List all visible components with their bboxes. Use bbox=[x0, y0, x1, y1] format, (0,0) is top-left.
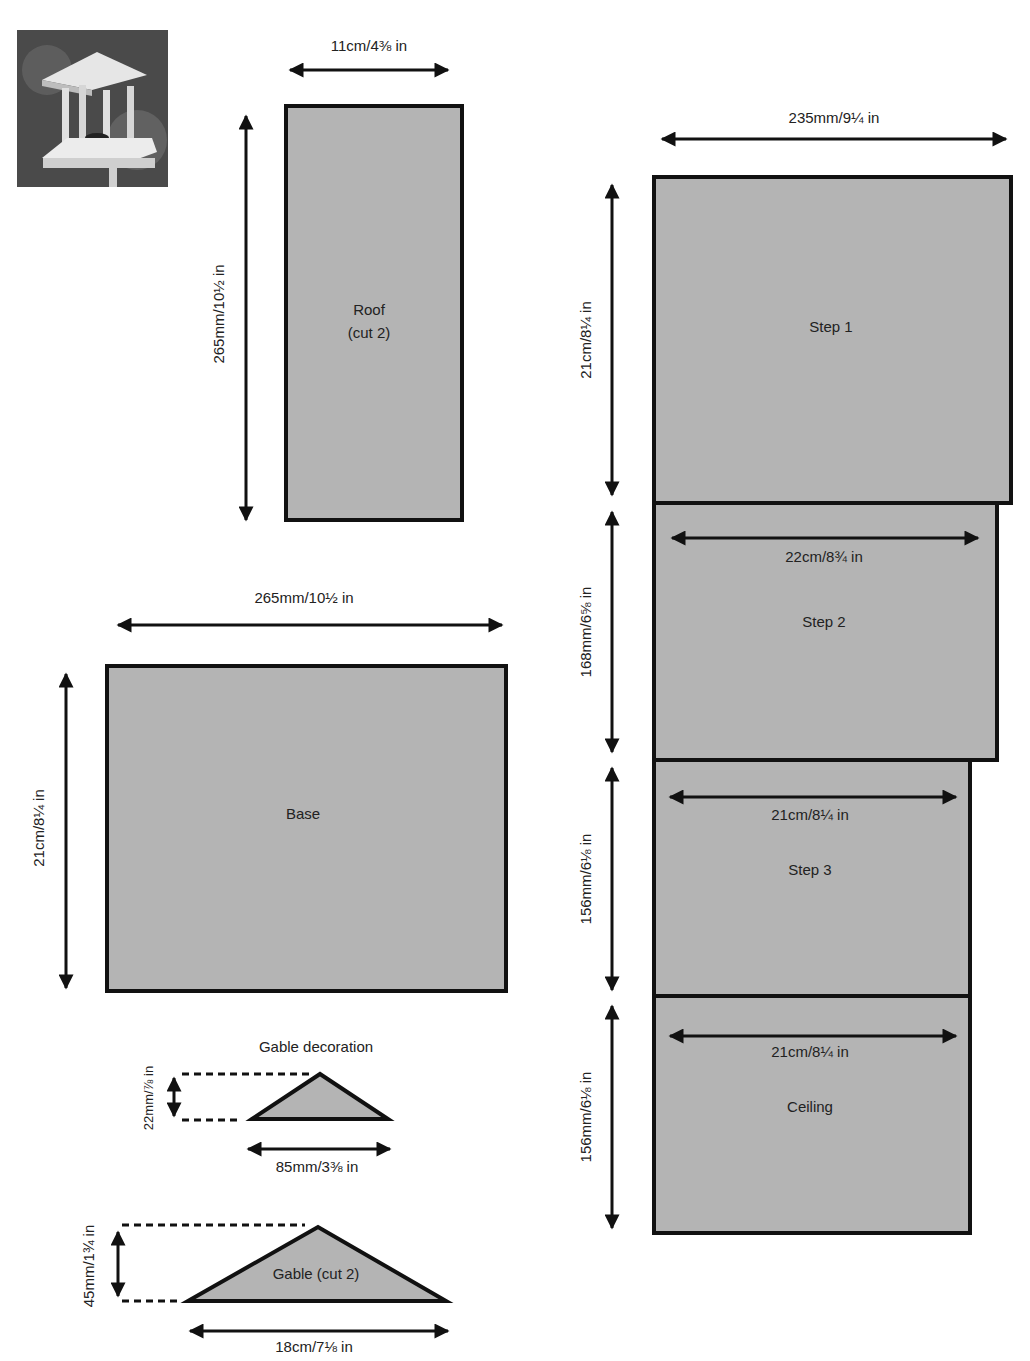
base-width-label: 265mm/10½ in bbox=[254, 589, 353, 606]
step3-piece: 156mm/6⅛ in 21cm/8¼ in Step 3 bbox=[577, 760, 970, 996]
step3-panel bbox=[654, 760, 970, 996]
step2-height-label: 168mm/6⅝ in bbox=[577, 587, 594, 678]
step1-width-label: 235mm/9¼ in bbox=[789, 109, 880, 126]
step1-name: Step 1 bbox=[809, 318, 852, 335]
roof-name: Roof bbox=[353, 301, 386, 318]
gable-decoration-width-label: 85mm/3⅜ in bbox=[276, 1158, 359, 1175]
gable-decoration-panel bbox=[252, 1074, 388, 1119]
roof-height-label: 265mm/10½ in bbox=[210, 264, 227, 363]
gable-piece: 45mm/1¾ in Gable (cut 2) 18cm/7⅛ in bbox=[80, 1225, 448, 1355]
base-name: Base bbox=[286, 805, 320, 822]
step3-width-label: 21cm/8¼ in bbox=[771, 806, 849, 823]
step3-name: Step 3 bbox=[788, 861, 831, 878]
roof-note: (cut 2) bbox=[348, 324, 391, 341]
step2-piece: 168mm/6⅝ in 22cm/8¾ in Step 2 bbox=[577, 503, 997, 760]
gable-decoration-height-label: 22mm/⅞ in bbox=[141, 1066, 156, 1130]
roof-piece: 11cm/4⅜ in 265mm/10½ in Roof (cut 2) bbox=[210, 37, 462, 520]
ceiling-width-label: 21cm/8¼ in bbox=[771, 1043, 849, 1060]
step2-width-label: 22cm/8¾ in bbox=[785, 548, 863, 565]
gable-height-label: 45mm/1¾ in bbox=[80, 1225, 97, 1308]
gable-panel bbox=[188, 1227, 446, 1301]
gable-decoration-name: Gable decoration bbox=[259, 1038, 373, 1055]
step3-height-label: 156mm/6⅛ in bbox=[577, 834, 594, 925]
step2-panel bbox=[654, 503, 997, 760]
base-piece: 265mm/10½ in 21cm/8¼ in Base bbox=[30, 589, 506, 991]
ceiling-height-label: 156mm/6⅛ in bbox=[577, 1072, 594, 1163]
gable-name: Gable (cut 2) bbox=[273, 1265, 360, 1282]
gable-decoration-piece: Gable decoration 22mm/⅞ in 85mm/3⅜ in bbox=[141, 1038, 390, 1175]
cutting-diagram: 11cm/4⅜ in 265mm/10½ in Roof (cut 2) 265… bbox=[0, 0, 1030, 1361]
ceiling-name: Ceiling bbox=[787, 1098, 833, 1115]
base-height-label: 21cm/8¼ in bbox=[30, 789, 47, 867]
step2-name: Step 2 bbox=[802, 613, 845, 630]
step1-piece: 235mm/9¼ in 21cm/8¼ in Step 1 bbox=[577, 109, 1011, 503]
ceiling-piece: 156mm/6⅛ in 21cm/8¼ in Ceiling bbox=[577, 996, 970, 1233]
step1-height-label: 21cm/8¼ in bbox=[577, 301, 594, 379]
step1-panel bbox=[654, 177, 1011, 503]
base-panel bbox=[107, 666, 506, 991]
gable-width-label: 18cm/7⅛ in bbox=[275, 1338, 353, 1355]
roof-width-label: 11cm/4⅜ in bbox=[331, 37, 407, 54]
